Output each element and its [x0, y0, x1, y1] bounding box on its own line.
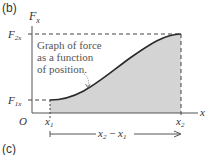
- origin-label: O: [19, 115, 27, 127]
- panel-label-b: (b): [2, 1, 17, 15]
- f1x-label: F1x: [7, 94, 22, 108]
- annotation-line-3: of position.: [37, 63, 87, 75]
- x1-label: x1: [44, 115, 53, 129]
- x-axis-label: x: [199, 106, 205, 118]
- panel-label-c: (c): [2, 142, 16, 155]
- force-position-diagram: (b) Fx x O F2x F1x x1 x2 Graph of force …: [0, 0, 215, 155]
- y-axis-label: Fx: [28, 9, 40, 25]
- annotation-line-2: as a function: [37, 51, 94, 63]
- x2-label: x2: [175, 115, 185, 129]
- f2x-label: F2x: [7, 28, 22, 42]
- annotation-line-1: Graph of force: [37, 39, 102, 51]
- interval-label: x2 − x1: [97, 127, 127, 141]
- annotation-pointer: [84, 74, 89, 86]
